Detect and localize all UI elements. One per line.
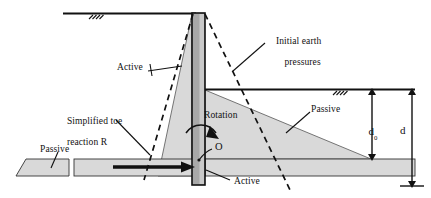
label-rotation: Rotation	[204, 110, 238, 121]
label-active-upper: Active	[117, 62, 143, 73]
label-initial-earth-pressures: Initial earth pressures	[266, 25, 321, 78]
label-d0-subscript: 0	[374, 134, 378, 141]
label-initial-earth-pressures-line2: pressures	[284, 57, 320, 67]
label-toe-reaction-line2: reaction R	[67, 137, 107, 147]
label-passive-left: Passive	[40, 144, 69, 155]
passive-pressure-wedge	[205, 90, 371, 159]
label-initial-earth-pressures-line1: Initial earth	[276, 36, 321, 46]
label-active-lower: Active	[234, 176, 260, 187]
passive-block-left	[16, 159, 69, 176]
base-soil-strip-right	[205, 159, 415, 176]
ground-hatch-marks-right	[333, 91, 348, 95]
diagram-canvas	[0, 0, 431, 198]
active-pressure-wedge	[158, 14, 192, 176]
label-dimension-d0: d0	[357, 115, 378, 152]
label-passive-right: Passive	[311, 104, 340, 115]
leader-initial-earth-pressures	[233, 43, 265, 71]
label-dimension-d: d	[400, 125, 406, 136]
label-toe-reaction-line1: Simplified toe	[67, 116, 123, 126]
ground-hatch-marks-top	[89, 15, 104, 19]
retaining-wall-diagram: Initial earth pressures Active Simplifie…	[0, 0, 431, 198]
label-rotation-point-o: O	[215, 142, 223, 153]
